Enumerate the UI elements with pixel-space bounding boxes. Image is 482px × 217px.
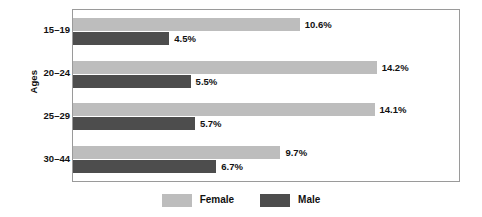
grouped-bar-chart: Ages 15–1920–2425–2930–44 10.6%4.5%14.2%… [0, 0, 482, 217]
bar-male-30-44 [73, 160, 216, 173]
legend-swatch-male-icon [260, 194, 290, 207]
bar-value-label: 9.7% [285, 146, 307, 159]
plot-area: 10.6%4.5%14.2%5.5%14.1%5.7%9.7%6.7% [72, 9, 460, 182]
y-tick-label: 25–29 [24, 111, 70, 121]
y-axis-tick-labels: 15–1920–2425–2930–44 [20, 9, 70, 182]
bar-value-label: 6.7% [221, 160, 243, 173]
legend-swatch-female-icon [162, 194, 192, 207]
plot-inner: 10.6%4.5%14.2%5.5%14.1%5.7%9.7%6.7% [73, 10, 459, 181]
legend-label-male: Male [298, 195, 320, 205]
bar-female-15-19 [73, 18, 300, 31]
bar-female-20-24 [73, 61, 377, 74]
legend-label-female: Female [200, 195, 234, 205]
bar-male-15-19 [73, 32, 169, 45]
bar-value-label: 14.2% [382, 61, 409, 74]
bar-value-label: 10.6% [305, 18, 332, 31]
bar-value-label: 5.7% [200, 117, 222, 130]
y-tick-label: 30–44 [24, 154, 70, 164]
chart-legend: Female Male [0, 190, 482, 210]
bar-female-25-29 [73, 103, 375, 116]
bar-female-30-44 [73, 146, 280, 159]
bar-male-25-29 [73, 117, 195, 130]
legend-item-male: Male [260, 194, 320, 207]
legend-item-female: Female [162, 194, 234, 207]
bar-male-20-24 [73, 75, 191, 88]
bar-value-label: 5.5% [196, 75, 218, 88]
y-tick-label: 20–24 [24, 68, 70, 78]
bar-value-label: 14.1% [380, 103, 407, 116]
bar-value-label: 4.5% [174, 32, 196, 45]
y-tick-label: 15–19 [24, 25, 70, 35]
